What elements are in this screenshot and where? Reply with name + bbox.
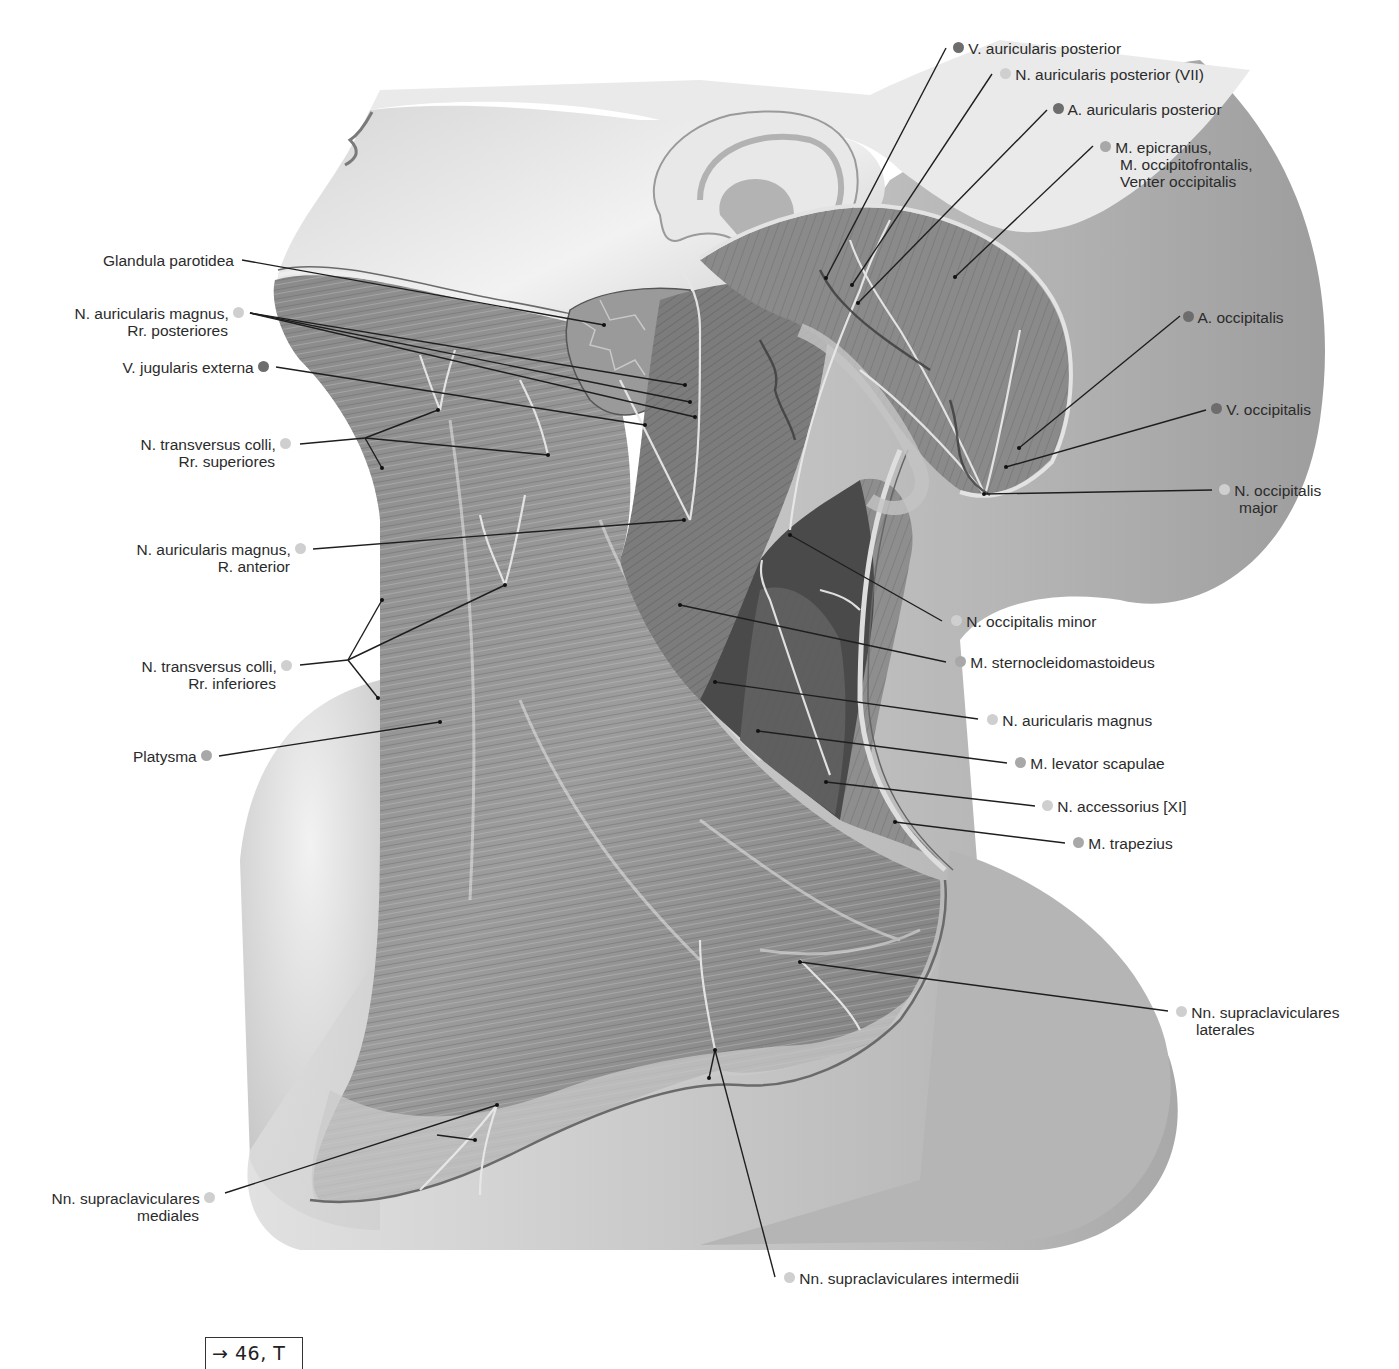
nerve-dot-icon	[951, 615, 962, 626]
label-text: M. sternocleidomastoideus	[970, 654, 1154, 671]
muscle-dot-icon	[1015, 757, 1026, 768]
label-text: N. transversus colli,	[141, 658, 276, 675]
label-n-auricularis-magnus-r-anterior: N. auricularis magnus, R. anterior	[136, 541, 306, 575]
label-text: N. auricularis magnus	[1002, 712, 1152, 729]
label-m-trapezius: M. trapezius	[1073, 835, 1173, 852]
label-text: Nn. supraclaviculares intermedii	[799, 1270, 1019, 1287]
muscle-dot-icon	[1100, 141, 1111, 152]
label-text: V. auricularis posterior	[968, 40, 1121, 57]
label-text: Nn. supraclaviculares	[1191, 1004, 1339, 1021]
label-text-line2: M. occipitofrontalis,	[1100, 156, 1253, 173]
label-n-occipitalis-minor: N. occipitalis minor	[951, 613, 1096, 630]
label-n-transversus-colli-rr-superiores: N. transversus colli, Rr. superiores	[140, 436, 291, 470]
label-m-epicranius: M. epicranius, M. occipitofrontalis, Ven…	[1100, 139, 1253, 190]
label-a-occipitalis: A. occipitalis	[1183, 309, 1284, 326]
label-text-line2: R. anterior	[136, 558, 306, 575]
nerve-dot-icon	[1176, 1006, 1187, 1017]
nerve-dot-icon	[280, 438, 291, 449]
label-text: N. auricularis magnus,	[136, 541, 290, 558]
label-n-auricularis-magnus: N. auricularis magnus	[987, 712, 1152, 729]
label-v-auricularis-posterior: V. auricularis posterior	[953, 40, 1121, 57]
label-text-line2: Rr. inferiores	[141, 675, 292, 692]
nerve-dot-icon	[204, 1192, 215, 1203]
label-v-jugularis-externa: V. jugularis externa	[122, 359, 269, 376]
label-n-transversus-colli-rr-inferiores: N. transversus colli, Rr. inferiores	[141, 658, 292, 692]
label-nn-supraclaviculares-intermedii: Nn. supraclaviculares intermedii	[784, 1270, 1019, 1287]
label-nn-supraclaviculares-laterales: Nn. supraclaviculares laterales	[1176, 1004, 1340, 1038]
label-n-auricularis-magnus-rr-posteriores: N. auricularis magnus, Rr. posteriores	[74, 305, 244, 339]
vessel-dot-icon	[953, 42, 964, 53]
muscle-dot-icon	[1073, 837, 1084, 848]
label-nn-supraclaviculares-mediales: Nn. supraclaviculares mediales	[52, 1190, 216, 1224]
label-text: N. auricularis posterior (VII)	[1015, 66, 1204, 83]
label-m-sternocleidomastoideus: M. sternocleidomastoideus	[955, 654, 1155, 671]
nerve-dot-icon	[1000, 68, 1011, 79]
label-text-line2: mediales	[52, 1207, 216, 1224]
label-a-auricularis-posterior: A. auricularis posterior	[1053, 101, 1222, 118]
label-text: N. transversus colli,	[140, 436, 275, 453]
vessel-dot-icon	[1183, 311, 1194, 322]
label-n-auricularis-posterior: N. auricularis posterior (VII)	[1000, 66, 1204, 83]
label-text: M. trapezius	[1088, 835, 1172, 852]
label-m-levator-scapulae: M. levator scapulae	[1015, 755, 1165, 772]
vessel-dot-icon	[1211, 403, 1222, 414]
muscle-dot-icon	[201, 750, 212, 761]
label-text: V. jugularis externa	[122, 359, 253, 376]
label-text: N. auricularis magnus,	[74, 305, 228, 322]
label-text: V. occipitalis	[1226, 401, 1311, 418]
label-text: Platysma	[133, 748, 197, 765]
label-text-line2: Rr. superiores	[140, 453, 291, 470]
label-text: N. occipitalis	[1234, 482, 1321, 499]
nerve-dot-icon	[1042, 800, 1053, 811]
nerve-dot-icon	[1219, 484, 1230, 495]
nerve-dot-icon	[784, 1272, 795, 1283]
nerve-dot-icon	[233, 307, 244, 318]
label-text: M. epicranius,	[1115, 139, 1211, 156]
label-text-line3: Venter occipitalis	[1100, 173, 1253, 190]
label-text: A. occipitalis	[1197, 309, 1283, 326]
label-text: Glandula parotidea	[103, 252, 234, 269]
label-n-accessorius: N. accessorius [XI]	[1042, 798, 1187, 815]
label-text-line2: major	[1219, 499, 1321, 516]
nerve-dot-icon	[295, 543, 306, 554]
label-platysma: Platysma	[133, 748, 212, 765]
muscle-dot-icon	[955, 656, 966, 667]
cross-reference-link[interactable]: → 46, T 7	[205, 1337, 303, 1369]
label-text: A. auricularis posterior	[1067, 101, 1221, 118]
label-text: M. levator scapulae	[1030, 755, 1164, 772]
label-text-line2: laterales	[1176, 1021, 1340, 1038]
label-text: N. occipitalis minor	[966, 613, 1096, 630]
vessel-dot-icon	[1053, 103, 1064, 114]
label-glandula-parotidea: Glandula parotidea	[103, 252, 234, 269]
label-text: N. accessorius [XI]	[1057, 798, 1186, 815]
label-v-occipitalis: V. occipitalis	[1211, 401, 1311, 418]
nerve-dot-icon	[281, 660, 292, 671]
label-text-line2: Rr. posteriores	[74, 322, 244, 339]
vessel-dot-icon	[258, 361, 269, 372]
label-text: Nn. supraclaviculares	[52, 1190, 200, 1207]
nerve-dot-icon	[987, 714, 998, 725]
label-n-occipitalis-major: N. occipitalis major	[1219, 482, 1321, 516]
